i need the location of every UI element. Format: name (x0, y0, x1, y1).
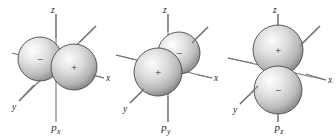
caption-py: py (110, 121, 222, 136)
sign-positive-py: + (155, 66, 161, 78)
lobe-positive-px: + (51, 44, 97, 90)
axis-tip-y-lower (19, 85, 34, 101)
orbital-pz-svg: + − z x y (222, 0, 336, 139)
p-orbital-figure: − + z x y px (0, 0, 336, 139)
axis-tip-x-left (228, 58, 252, 63)
caption-px-sub: x (57, 127, 61, 136)
axis-tip-x-left (116, 55, 136, 60)
axis-label-y-py: y (122, 104, 128, 114)
orbital-py-svg: − + z x y (110, 0, 222, 139)
lobe-negative-pz: − (254, 66, 302, 114)
orbital-diagram-pz: + − z x y pz (222, 0, 336, 139)
orbital-diagram-px: − + z x y px (0, 0, 112, 139)
sign-positive-px: + (71, 61, 77, 73)
axis-label-z-py: z (162, 5, 167, 15)
axis-tip-y-upper (300, 26, 320, 46)
caption-px: px (0, 121, 112, 136)
lobe-positive-py: + (134, 48, 182, 96)
axis-tip-x-right (198, 75, 212, 78)
sign-negative-pz: − (275, 84, 281, 96)
caption-py-sub: y (167, 127, 171, 136)
sign-negative-px: − (37, 53, 43, 65)
axis-label-z-px: z (50, 5, 55, 15)
axis-tip-x-right (306, 74, 326, 80)
axis-tip-y-upper (192, 27, 208, 43)
axis-label-x-py: x (213, 73, 219, 83)
axis-label-x-pz: x (327, 75, 333, 85)
sign-positive-pz: + (275, 44, 281, 56)
axis-tip-y-lower (130, 89, 144, 103)
caption-pz-sub: z (280, 127, 283, 136)
axis-tip-y-upper (80, 26, 96, 42)
caption-pz: pz (222, 121, 336, 136)
orbital-px-svg: − + z x y (0, 0, 112, 139)
axis-label-y-px: y (11, 102, 17, 112)
axis-label-z-pz: z (272, 5, 277, 15)
axis-label-y-pz: y (232, 105, 238, 115)
orbital-diagram-py: − + z x y py (110, 0, 222, 139)
